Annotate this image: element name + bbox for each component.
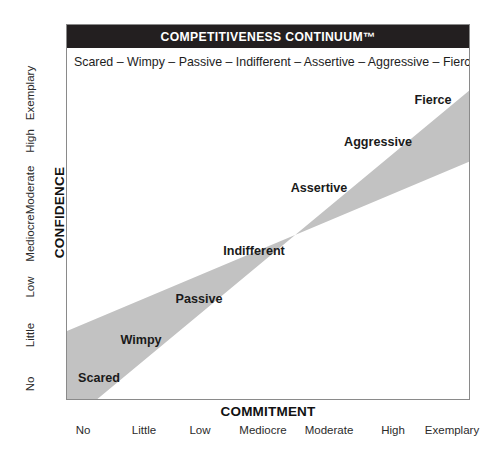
plot-area: COMPETITIVENESS CONTINUUM™ Scared – Wimp… xyxy=(66,24,470,400)
x-axis-tick-labels: No Little Low Mediocre Moderate High Exe… xyxy=(66,424,470,442)
band-label-assertive: Assertive xyxy=(291,181,348,195)
y-axis-title: CONFIDENCE xyxy=(52,133,67,293)
x-tick-exemplary: Exemplary xyxy=(407,424,495,436)
band-label-passive: Passive xyxy=(176,292,223,306)
x-axis-title: COMMITMENT xyxy=(66,404,470,419)
band-label-scared: Scared xyxy=(78,371,120,385)
band-label-indifferent: Indifferent xyxy=(223,244,285,258)
competitiveness-continuum-chart: CONFIDENCE No Little Low Mediocre Modera… xyxy=(0,0,495,457)
band-label-aggressive: Aggressive xyxy=(344,135,412,149)
y-tick-exemplary: Exemplary xyxy=(24,33,36,153)
band-label-wimpy: Wimpy xyxy=(120,333,161,347)
y-axis-tick-labels: No Little Low Mediocre Moderate High Exe… xyxy=(16,60,44,400)
band-label-fierce: Fierce xyxy=(414,93,451,107)
